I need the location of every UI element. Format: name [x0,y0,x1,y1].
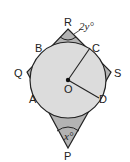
label-angle-x: x° [63,130,74,142]
label-a: A [29,93,37,105]
label-q: Q [14,67,23,79]
label-o: O [64,83,73,95]
label-c: C [92,42,100,54]
label-s: S [114,67,121,79]
label-p: P [64,150,71,162]
kite-circle-diagram: R 2y° B C Q S O A D x° P [0,0,130,162]
label-angle-2y: 2y° [79,20,94,32]
label-d: D [99,93,107,105]
center-point [66,78,70,82]
label-r: R [64,16,72,28]
label-b: B [35,42,42,54]
